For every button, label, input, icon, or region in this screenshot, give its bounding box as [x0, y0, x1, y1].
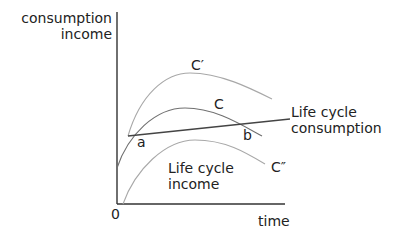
x-axis-label: time — [258, 213, 290, 229]
life-cycle-consumption-label: Life cycle consumption — [291, 104, 382, 136]
y-axis-label-line2: income — [0, 26, 112, 42]
life-cycle-income-label: Life cycle income — [168, 160, 234, 192]
curve-c-label: C — [214, 96, 224, 112]
life-cycle-consumption-line — [128, 119, 290, 136]
curve-c-double-prime-label: C″ — [271, 159, 286, 175]
consumption-label-line1: Life cycle — [291, 104, 382, 120]
income-label-line2: income — [168, 176, 234, 192]
income-label-line1: Life cycle — [168, 160, 234, 176]
origin-label: 0 — [111, 206, 120, 222]
y-axis-label: consumption income — [0, 10, 112, 42]
y-axis-label-line1: consumption — [0, 10, 112, 26]
curve-c-prime-label: C′ — [191, 57, 204, 73]
point-a-label: a — [137, 134, 146, 150]
point-b-label: b — [243, 127, 252, 143]
consumption-label-line2: consumption — [291, 120, 382, 136]
